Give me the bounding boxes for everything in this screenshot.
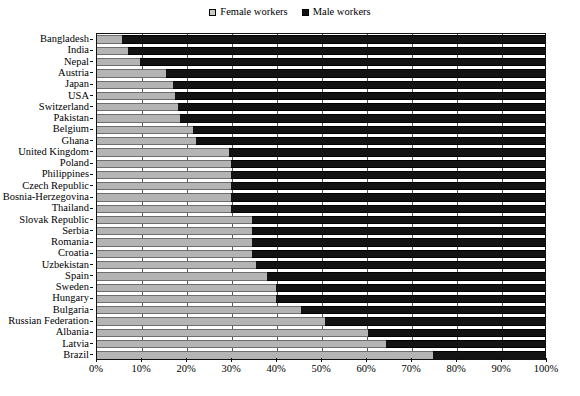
y-axis-tick-mark (90, 72, 93, 73)
square-swatch-icon (302, 9, 309, 16)
bar-segment-male (267, 272, 545, 280)
y-axis-tick-mark (90, 242, 93, 243)
bar-segment-female (97, 148, 229, 156)
bar-segment-female (97, 47, 128, 55)
bar-segment-male (128, 47, 545, 55)
table-row (97, 340, 545, 348)
y-axis-tick-mark (90, 174, 93, 175)
table-row (97, 182, 545, 190)
y-axis-tick-mark (90, 151, 93, 152)
y-axis-tick-mark (90, 84, 93, 85)
x-axis-tick-label: 40% (266, 363, 285, 375)
x-axis-tick-labels: 0%10%20%30%40%50%60%70%80%90%100% (0, 363, 580, 379)
bar-segment-male (175, 92, 545, 100)
y-axis-tick-mark (90, 197, 93, 198)
x-axis-tick-label: 30% (221, 363, 240, 375)
table-row (97, 261, 545, 269)
bar-segment-male (140, 58, 545, 66)
bar-segment-female (97, 182, 231, 190)
x-axis-tick-label: 100% (534, 363, 559, 375)
bar-segment-female (97, 35, 122, 43)
bar-segment-male (252, 250, 545, 258)
table-row (97, 114, 545, 122)
y-axis-tick-mark (90, 332, 93, 333)
table-row (97, 205, 545, 213)
x-axis-tick-mark (96, 358, 97, 362)
bar-segment-male (325, 317, 545, 325)
bar-segment-female (97, 295, 276, 303)
y-axis-category-label: India (67, 44, 89, 55)
bar-segment-male (231, 205, 545, 213)
bar-segment-female (97, 306, 301, 314)
y-axis-tick-mark (90, 253, 93, 254)
table-row (97, 238, 545, 246)
table-row (97, 92, 545, 100)
x-axis-tick-mark (411, 358, 412, 362)
table-row (97, 216, 545, 224)
y-axis-tick-mark (90, 61, 93, 62)
bar-segment-male (252, 227, 545, 235)
x-axis-tick-mark (276, 358, 277, 362)
x-axis-tick-label: 90% (491, 363, 510, 375)
square-swatch-icon (209, 9, 216, 16)
bar-segment-female (97, 340, 386, 348)
x-axis-tick-mark (321, 358, 322, 362)
y-axis-category-label: United Kingdom (18, 146, 89, 157)
y-axis-tick-mark (90, 163, 93, 164)
y-axis-category-label: Croatia (58, 247, 89, 258)
y-axis-tick-mark (90, 106, 93, 107)
bar-segment-female (97, 261, 256, 269)
table-row (97, 103, 545, 111)
table-row (97, 171, 545, 179)
y-axis-tick-mark (90, 50, 93, 51)
bar-segment-female (97, 227, 252, 235)
bar-segment-female (97, 92, 175, 100)
y-axis-category-label: Latvia (62, 338, 89, 349)
x-axis-tick-label: 80% (446, 363, 465, 375)
stacked-bar-chart: Female workers Male workers BangladeshIn… (0, 0, 580, 396)
plot-area (96, 33, 546, 360)
y-axis-category-label: Hungary (52, 292, 89, 303)
bar-segment-female (97, 81, 173, 89)
bar-segment-female (97, 205, 231, 213)
bar-segment-female (97, 238, 252, 246)
bar-segment-male (256, 261, 545, 269)
y-axis-tick-mark (90, 309, 93, 310)
y-axis-category-label: Ghana (62, 135, 89, 146)
bar-segment-female (97, 216, 252, 224)
y-axis-category-label: Czech Republic (22, 180, 89, 191)
y-axis-tick-mark (90, 39, 93, 40)
table-row (97, 58, 545, 66)
x-axis-tick-label: 10% (131, 363, 150, 375)
y-axis-tick-mark (90, 208, 93, 209)
y-axis-category-label: Albania (56, 326, 89, 337)
bar-segment-male (301, 306, 545, 314)
table-row (97, 81, 545, 89)
chart-legend: Female workers Male workers (0, 6, 580, 18)
y-axis-category-label: Slovak Republic (19, 214, 89, 225)
bar-rows (97, 34, 545, 359)
table-row (97, 148, 545, 156)
legend-entry-female: Female workers (209, 6, 287, 18)
y-axis-tick-mark (90, 298, 93, 299)
y-axis-category-label: Brazil (63, 349, 89, 360)
bar-segment-female (97, 284, 276, 292)
y-axis-tick-mark (90, 287, 93, 288)
y-axis-tick-mark (90, 343, 93, 344)
y-axis-category-label: Philippines (42, 168, 89, 179)
bar-segment-male (178, 103, 545, 111)
bar-segment-female (97, 160, 231, 168)
y-axis-tick-mark (90, 354, 93, 355)
table-row (97, 126, 545, 134)
y-axis-category-label: Sweden (56, 281, 89, 292)
y-axis-category-label: Japan (65, 78, 89, 89)
bar-segment-female (97, 272, 267, 280)
bar-segment-male (196, 137, 545, 145)
y-axis-tick-mark (90, 185, 93, 186)
table-row (97, 295, 545, 303)
bar-segment-female (97, 250, 252, 258)
bar-segment-male (231, 160, 545, 168)
x-axis-tick-mark (456, 358, 457, 362)
y-axis-category-label: Austria (58, 67, 89, 78)
y-axis-category-label: Serbia (62, 225, 89, 236)
